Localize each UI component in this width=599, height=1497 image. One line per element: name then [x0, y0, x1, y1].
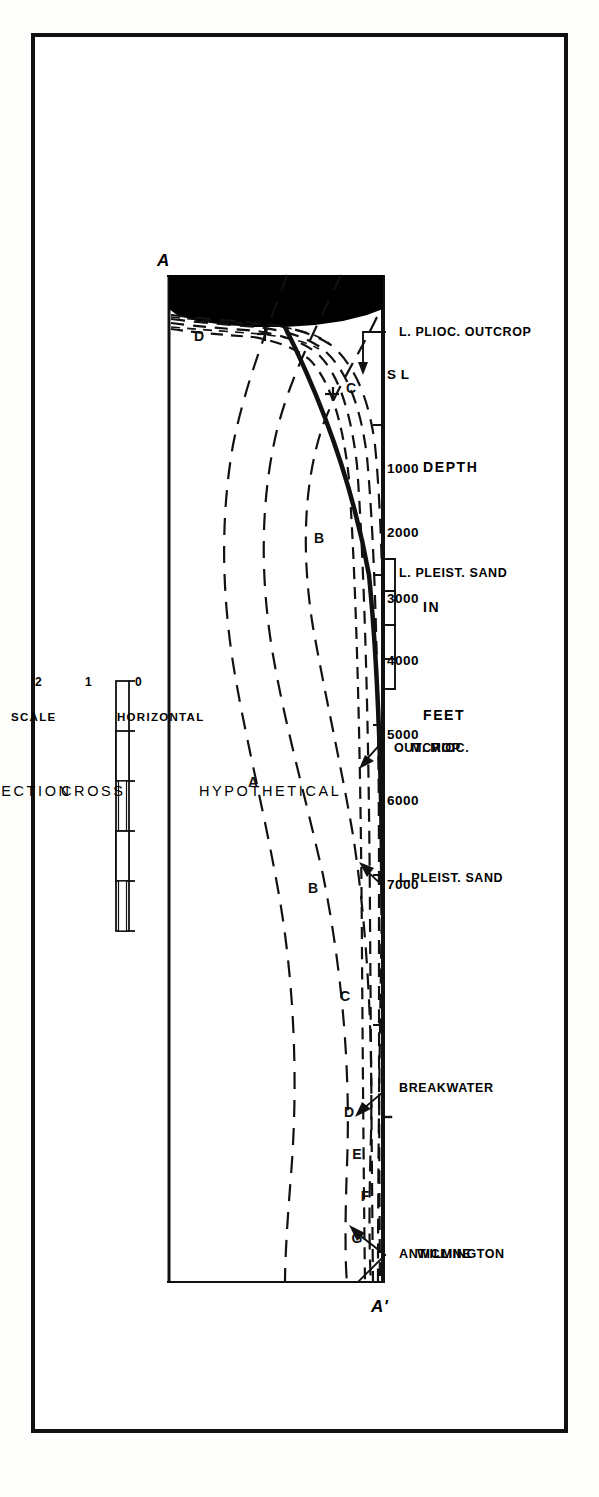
horizon-top-B [263, 275, 347, 1283]
stratum-label-C-right: C [339, 988, 349, 1004]
cross-section: A B B C C D D E F G A A' [167, 275, 385, 1283]
figure-stage: DEPTH IN FEET S L 1000 2000 3000 4000 50… [65, 129, 535, 1369]
section-geology: A B B C C D D E F G [167, 275, 385, 1283]
stratum-label-D-right: D [343, 1104, 353, 1120]
stratum-label-G: G [351, 1230, 362, 1246]
endpoint-label-A-prime: A' [371, 1297, 388, 1317]
scale-bar-title-horizontal: HORIZONTAL [117, 711, 205, 723]
caption-word-hypothetical: HYPOTHETICAL [199, 783, 341, 799]
scale-tick-1: 1 [85, 675, 92, 689]
stratum-label-B-left: B [313, 530, 323, 546]
stratum-label-E: E [352, 1146, 361, 1162]
stratum-label-D-left: D [193, 328, 203, 344]
scale-tick-0: 0 [135, 675, 142, 689]
horizon-top-G [171, 329, 365, 1283]
stratum-label-F: F [360, 1188, 369, 1204]
caption-word-section: SECTION [0, 783, 71, 799]
scale-tick-2: 2 [35, 675, 42, 689]
stratum-label-C-left: C [345, 380, 355, 396]
scale-bar-title-scale: SCALE [11, 711, 56, 723]
basement-outcrop-trace [285, 327, 383, 915]
stratum-label-B-right: B [307, 880, 317, 896]
endpoint-label-A: A [157, 251, 170, 271]
horizon-top-A [224, 275, 294, 1283]
